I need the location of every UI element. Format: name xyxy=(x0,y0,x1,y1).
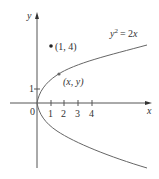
parabola-curve xyxy=(37,45,147,168)
y-axis xyxy=(35,12,39,168)
y-tick-label-1: 1 xyxy=(29,83,34,94)
x-tick-label-2: 2 xyxy=(61,108,66,119)
x-tick-label-1: 1 xyxy=(48,108,53,119)
y-axis-label: y xyxy=(26,10,32,21)
origin-label: 0 xyxy=(30,106,35,117)
equation-label: y2= 2x xyxy=(109,27,138,39)
point-x-y xyxy=(57,72,60,75)
x-axis xyxy=(10,101,152,105)
x-tick-label-3: 3 xyxy=(75,108,80,119)
parabola-diagram: y x 1 0 1 2 3 4 (1, 4) (x, y) y2= 2x xyxy=(0,0,159,179)
point-1-4-label: (1, 4) xyxy=(55,41,77,53)
y-axis-arrow-icon xyxy=(35,12,39,19)
point-1-4 xyxy=(49,44,53,48)
x-tick-label-4: 4 xyxy=(89,108,94,119)
x-axis-label: x xyxy=(146,105,152,116)
point-x-y-label: (x, y) xyxy=(63,76,84,88)
